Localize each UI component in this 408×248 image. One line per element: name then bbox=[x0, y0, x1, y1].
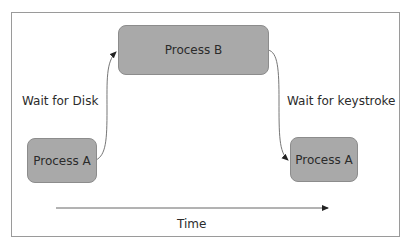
wait-for-disk-label: Wait for Disk bbox=[22, 94, 98, 108]
arrow-wait-for-keystroke bbox=[268, 50, 288, 160]
arrow-wait-for-disk bbox=[96, 52, 116, 160]
process-a-end-node: Process A bbox=[290, 137, 358, 182]
time-label: Time bbox=[177, 217, 206, 231]
process-a-start-node: Process A bbox=[27, 138, 97, 183]
process-a-start-label: Process A bbox=[33, 154, 91, 168]
process-b-label: Process B bbox=[165, 43, 223, 57]
process-a-end-label: Process A bbox=[295, 153, 353, 167]
wait-for-keystroke-label: Wait for keystroke bbox=[287, 94, 396, 108]
process-b-node: Process B bbox=[118, 25, 269, 75]
